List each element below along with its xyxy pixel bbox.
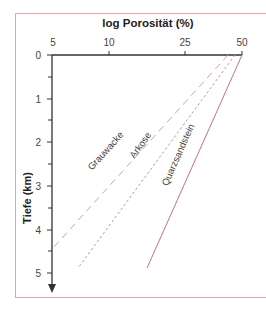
y-tick-label-2: 2 (35, 137, 41, 148)
y-tick-label-0: 0 (35, 50, 41, 61)
y-tick-label-4: 4 (35, 225, 41, 236)
y-tick-label-3: 3 (35, 181, 41, 192)
series-label-grauwacke: Grauwacke (85, 129, 125, 172)
x-tick-label-5: 5 (50, 37, 56, 48)
x-tick-label-25: 25 (179, 37, 191, 48)
series-label-quarzsandstein: Quarzsandstein (159, 122, 196, 187)
y-tick-label-5: 5 (35, 268, 41, 279)
x-tick-label-50: 50 (236, 37, 248, 48)
x-tick-label-10: 10 (103, 37, 115, 48)
porosity-depth-chart: log Porosität (%) 5 10 25 50 0 1 2 3 4 5… (0, 0, 266, 310)
y-tick-label-1: 1 (35, 94, 41, 105)
series-line-quarzsandstein (147, 55, 242, 268)
y-axis-arrow-icon (48, 284, 56, 293)
y-axis-label: Tiefe (km) (21, 172, 33, 224)
chart-title: log Porosität (%) (102, 17, 194, 29)
series-label-arkose: Arkose (127, 130, 153, 160)
